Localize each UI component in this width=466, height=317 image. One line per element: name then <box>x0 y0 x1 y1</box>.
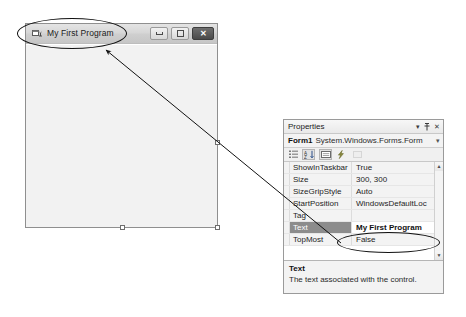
close-button[interactable]: ✕ <box>192 27 214 40</box>
property-name: SizeGripStyle <box>290 186 352 197</box>
property-row[interactable]: StartPositionWindowsDefaultLoc <box>284 198 434 210</box>
property-name: Text <box>290 222 352 233</box>
minimize-icon <box>156 32 163 35</box>
properties-panel-title: Properties <box>288 123 416 131</box>
close-icon[interactable]: ✕ <box>434 123 440 130</box>
property-value[interactable]: Auto <box>352 186 434 197</box>
form-designer-icon <box>32 28 43 39</box>
property-row[interactable]: ShowInTaskbarTrue <box>284 162 434 174</box>
description-text: The text associated with the control. <box>289 275 438 286</box>
events-button[interactable] <box>334 149 347 160</box>
object-dropdown-caret-icon[interactable]: ▾ <box>436 137 440 145</box>
property-value[interactable]: False <box>352 234 434 245</box>
properties-object-selector[interactable]: Form1 System.Windows.Forms.Form ▾ <box>284 134 443 148</box>
properties-panel-header-icons: ▾ ✕ <box>416 123 440 131</box>
property-row[interactable]: Size300, 300 <box>284 174 434 186</box>
property-value[interactable]: 300, 300 <box>352 174 434 185</box>
close-icon: ✕ <box>200 30 207 38</box>
property-grid[interactable]: ShowInTaskbarTrueSize300, 300SizeGripSty… <box>284 162 434 260</box>
scrollbar-track[interactable] <box>435 171 443 251</box>
form-title-label: My First Program <box>47 29 114 38</box>
properties-panel[interactable]: Properties ▾ ✕ Form1 System.Windows.Form… <box>283 119 444 294</box>
properties-panel-header: Properties ▾ ✕ <box>284 120 443 134</box>
property-row[interactable]: Tag <box>284 210 434 222</box>
scroll-up-button[interactable]: ▲ <box>435 162 443 171</box>
property-pages-button <box>351 149 364 160</box>
alphabetical-button[interactable]: A Z <box>302 149 315 160</box>
resize-handle-middle-right[interactable] <box>215 140 220 145</box>
property-row[interactable]: TopMostFalse <box>284 234 434 246</box>
maximize-button[interactable] <box>171 27 189 40</box>
form-client-area[interactable] <box>26 44 217 227</box>
scroll-down-button[interactable]: ▼ <box>435 251 443 260</box>
categorized-button[interactable] <box>287 149 300 160</box>
resize-handle-bottom-center[interactable] <box>120 225 125 230</box>
maximize-icon <box>177 30 184 37</box>
form-title-bar[interactable]: My First Program ✕ <box>26 24 217 44</box>
property-description-pane: Text The text associated with the contro… <box>284 260 443 293</box>
properties-button[interactable] <box>319 149 332 160</box>
property-name: StartPosition <box>290 198 352 209</box>
pin-icon[interactable] <box>424 123 430 131</box>
property-name: TopMost <box>290 234 352 245</box>
property-value[interactable]: WindowsDefaultLoc <box>352 198 434 209</box>
property-grid-wrapper: ShowInTaskbarTrueSize300, 300SizeGripSty… <box>284 162 443 260</box>
property-name: Tag <box>290 210 352 221</box>
minimize-button[interactable] <box>150 27 168 40</box>
object-name-label: Form1 <box>288 136 312 145</box>
property-name: ShowInTaskbar <box>290 162 352 173</box>
property-row[interactable]: TextMy First Program <box>284 222 434 234</box>
svg-text:Z: Z <box>304 155 307 159</box>
resize-handle-bottom-right[interactable] <box>215 225 220 230</box>
object-type-label: System.Windows.Forms.Form <box>315 136 436 145</box>
property-value[interactable]: My First Program <box>352 222 434 233</box>
design-form-window[interactable]: My First Program ✕ <box>25 23 218 228</box>
screenshot-root: My First Program ✕ Properties ▾ <box>0 0 466 317</box>
property-value[interactable]: True <box>352 162 434 173</box>
property-name: Size <box>290 174 352 185</box>
description-title: Text <box>289 264 438 274</box>
property-row[interactable]: SizeGripStyleAuto <box>284 186 434 198</box>
property-value[interactable] <box>352 210 434 221</box>
chevron-down-icon[interactable]: ▾ <box>416 123 420 130</box>
properties-toolbar: A Z <box>284 148 443 162</box>
window-controls: ✕ <box>150 27 214 40</box>
property-grid-scrollbar[interactable]: ▲ ▼ <box>434 162 443 260</box>
